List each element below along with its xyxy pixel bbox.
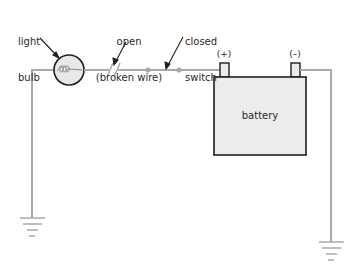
label-open-title: open xyxy=(94,36,164,48)
circuit-diagram xyxy=(0,0,359,264)
label-broken-wire: (broken wire) xyxy=(94,72,164,84)
positive-terminal xyxy=(220,63,229,77)
label-closed: closed xyxy=(185,36,217,48)
negative-terminal xyxy=(291,63,300,77)
label-open: open (broken wire) xyxy=(94,12,164,96)
label-positive-terminal: (+) xyxy=(212,48,236,60)
label-battery: battery xyxy=(214,110,306,122)
label-bulb: bulb xyxy=(18,72,40,84)
ground-symbol-right xyxy=(319,242,344,260)
label-negative-terminal: (–) xyxy=(283,48,307,60)
label-switch: switch xyxy=(185,72,217,84)
label-light-bulb: light bulb xyxy=(18,12,40,96)
label-light: light xyxy=(18,36,40,48)
light-bulb xyxy=(54,55,84,85)
pointer-arrow-switch xyxy=(165,37,183,69)
pointer-arrow-bulb xyxy=(40,38,59,58)
ground-symbol-left xyxy=(20,218,45,236)
